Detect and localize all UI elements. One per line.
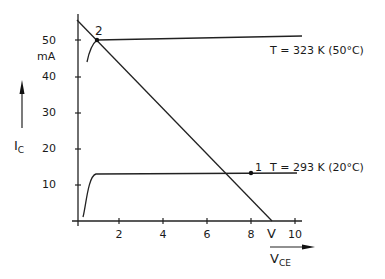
chart-canvas [0,0,385,279]
curve-293k [83,173,297,217]
x-arrow-head-icon [302,245,315,250]
y-tick-30: 30 [26,107,56,118]
x-tick-6: 6 [197,229,217,240]
x-unit-label: V [267,227,276,240]
curve-lower-label: T = 293 K (20°C) [270,162,364,173]
x-axis-subscript: CE [279,258,291,268]
y-tick-20: 20 [26,143,56,154]
x-axis-label: VCE [270,252,291,268]
y-axis-subscript: C [18,145,24,155]
y-tick-50: 50 [26,35,56,46]
curve-upper-label: T = 323 K (50°C) [270,45,364,56]
point-2-label: 2 [95,25,103,37]
y-tick-40: 40 [26,71,56,82]
x-tick-10: 10 [285,229,305,240]
load-line [77,20,272,221]
x-tick-4: 4 [153,229,173,240]
point-1-label: 1 [255,162,262,173]
x-tick-8: 8 [241,229,261,240]
x-axis-symbol: V [270,251,279,266]
y-tick-10: 10 [26,179,56,190]
operating-point-1 [249,171,253,175]
y-unit-label: mA [37,51,55,62]
y-axis-label: IC [14,139,24,155]
y-arrow-head-icon [20,80,25,94]
operating-point-2 [95,38,99,42]
x-tick-2: 2 [109,229,129,240]
